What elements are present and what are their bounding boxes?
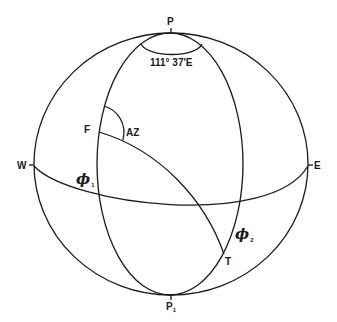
polar-angle-arc (141, 44, 202, 55)
from-point-label: F (84, 125, 90, 135)
phi1-label: ϕ1 (76, 171, 94, 188)
west-label: W (17, 161, 26, 171)
sphere-diagram: P 111° 37'E F AZ W E ϕ1 ϕ2 T P1 (0, 0, 337, 322)
north-pole-label: P (167, 17, 174, 27)
sphere-drawing (0, 0, 337, 322)
east-label: E (314, 161, 321, 171)
meridian-ellipse (97, 33, 243, 295)
to-point-label: T (225, 257, 231, 267)
azimuth-label: AZ (126, 128, 139, 138)
south-pole-label: P1 (166, 302, 176, 313)
phi2-label: ϕ2 (235, 226, 253, 243)
great-circle-path (99, 132, 224, 254)
outer-sphere-outline (34, 33, 308, 295)
longitude-difference-label: 111° 37'E (150, 58, 193, 68)
